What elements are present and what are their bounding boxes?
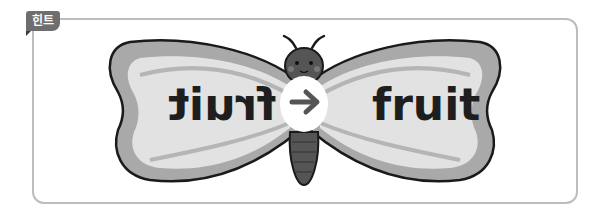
correct-word: fruit: [372, 83, 480, 127]
mirrored-word: fruit: [168, 83, 276, 127]
butterfly-illustration: [0, 0, 607, 214]
